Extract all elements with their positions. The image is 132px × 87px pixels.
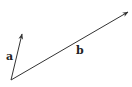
vector-b-arrow (11, 12, 128, 80)
vector-b-label: b (76, 44, 84, 57)
vector-a-label: a (6, 50, 13, 63)
vector-diagram: a b (0, 0, 132, 87)
